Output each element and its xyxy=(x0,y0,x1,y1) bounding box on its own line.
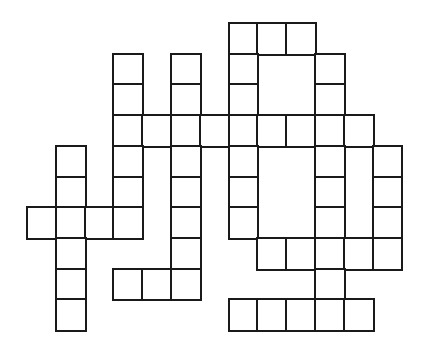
crossword-cell[interactable] xyxy=(228,176,259,209)
crossword-cell[interactable] xyxy=(228,114,259,148)
crossword-cell[interactable] xyxy=(112,83,144,117)
crossword-cell[interactable] xyxy=(26,206,58,240)
crossword-cell[interactable] xyxy=(112,145,144,179)
crossword-cell[interactable] xyxy=(55,145,87,179)
crossword-cell[interactable] xyxy=(55,298,87,332)
crossword-cell[interactable] xyxy=(285,22,317,56)
crossword-cell[interactable] xyxy=(343,237,375,271)
crossword-cell[interactable] xyxy=(228,206,259,240)
crossword-cell[interactable] xyxy=(112,176,144,209)
crossword-cell[interactable] xyxy=(314,268,346,301)
crossword-cell[interactable] xyxy=(170,53,202,86)
crossword-cell[interactable] xyxy=(141,114,173,148)
crossword-cell[interactable] xyxy=(228,83,259,117)
crossword-cell[interactable] xyxy=(112,53,144,86)
crossword-cell[interactable] xyxy=(314,176,346,209)
crossword-cell[interactable] xyxy=(343,114,375,148)
crossword-cell[interactable] xyxy=(256,237,288,271)
crossword-cell[interactable] xyxy=(55,176,87,209)
crossword-cell[interactable] xyxy=(314,237,346,271)
crossword-cell[interactable] xyxy=(84,206,115,240)
crossword-cell[interactable] xyxy=(170,176,202,209)
crossword-cell[interactable] xyxy=(314,114,346,148)
crossword-cell[interactable] xyxy=(372,145,403,179)
crossword-cell[interactable] xyxy=(285,298,317,332)
crossword-grid xyxy=(0,0,424,350)
crossword-cell[interactable] xyxy=(228,22,259,56)
crossword-cell[interactable] xyxy=(256,22,288,56)
crossword-cell[interactable] xyxy=(55,268,87,301)
crossword-cell[interactable] xyxy=(343,298,375,332)
crossword-cell[interactable] xyxy=(285,237,317,271)
crossword-cell[interactable] xyxy=(228,53,259,86)
crossword-cell[interactable] xyxy=(228,145,259,179)
crossword-cell[interactable] xyxy=(314,206,346,240)
crossword-cell[interactable] xyxy=(112,206,144,240)
crossword-cell[interactable] xyxy=(372,206,403,240)
crossword-cell[interactable] xyxy=(256,298,288,332)
crossword-cell[interactable] xyxy=(314,53,346,86)
crossword-cell[interactable] xyxy=(228,298,259,332)
crossword-cell[interactable] xyxy=(199,114,231,148)
crossword-cell[interactable] xyxy=(256,114,288,148)
crossword-cell[interactable] xyxy=(112,268,144,301)
crossword-cell[interactable] xyxy=(372,176,403,209)
crossword-cell[interactable] xyxy=(285,114,317,148)
crossword-cell[interactable] xyxy=(170,83,202,117)
crossword-cell[interactable] xyxy=(314,298,346,332)
crossword-cell[interactable] xyxy=(314,83,346,117)
crossword-cell[interactable] xyxy=(170,145,202,179)
crossword-cell[interactable] xyxy=(55,206,87,240)
crossword-cell[interactable] xyxy=(372,237,403,271)
crossword-cell[interactable] xyxy=(112,114,144,148)
crossword-cell[interactable] xyxy=(170,237,202,271)
crossword-cell[interactable] xyxy=(170,206,202,240)
crossword-cell[interactable] xyxy=(314,145,346,179)
crossword-cell[interactable] xyxy=(141,268,173,301)
crossword-cell[interactable] xyxy=(55,237,87,271)
crossword-cell[interactable] xyxy=(170,268,202,301)
crossword-cell[interactable] xyxy=(170,114,202,148)
